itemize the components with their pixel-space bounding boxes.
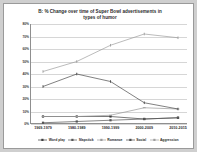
y-axis-tick-label: 0% [24,122,29,126]
legend-marker-icon [38,138,47,142]
data-point-marker [144,101,145,104]
legend-marker-icon [126,138,135,142]
chart-legend: Word playSlapstickRomanceSocialAggressio… [30,138,187,142]
data-point-marker [178,108,179,111]
legend-item[interactable]: Aggression [150,138,179,142]
data-point-marker [42,116,45,117]
legend-item[interactable]: Slapstick [68,138,93,142]
legend-label: Slapstick [79,138,94,142]
y-axis-tick-label: 30% [22,85,29,89]
chart-frame: B: % Change over time of Super Bowl adve… [3,3,194,149]
data-point-marker [143,107,146,108]
data-point-marker [76,73,77,76]
legend-marker-icon [68,138,77,142]
x-axis-tick-label: 1969-1979 [34,126,52,130]
data-point-marker [43,85,44,88]
gridline [31,124,187,125]
legend-marker-icon [150,138,159,142]
x-axis-tick-label: 2010-2015 [169,126,187,130]
y-axis-tick-label: 40% [22,72,29,76]
legend-label: Word play [49,138,65,142]
y-axis-tick-label: 10% [22,110,29,114]
legend-label: Social [136,138,146,142]
data-point-marker [144,33,145,36]
legend-item[interactable]: Social [126,138,146,142]
x-axis-tick-label: 1980-1989 [68,126,86,130]
legend-label: Aggression [160,138,179,142]
data-point-marker [109,115,112,116]
plot-area: 0%10%20%30%40%50%60%70%80% 1969-19791980… [30,24,187,124]
y-axis-tick-label: 60% [22,47,29,51]
y-axis-tick-label: 50% [22,60,29,64]
data-point-marker [177,117,179,119]
legend-item[interactable]: Romance [97,138,122,142]
series-line [43,34,178,72]
y-axis-tick-label: 20% [22,97,29,101]
x-axis-tick-label: 1990-1999 [102,126,120,130]
x-axis-tick-label: 2000-2009 [135,126,153,130]
y-axis-tick-label: 70% [22,35,29,39]
chart-title-line-2: types of humor [18,15,182,21]
data-point-marker [42,122,44,124]
data-point-marker [43,70,44,73]
data-point-marker [110,80,111,83]
data-point-marker [110,44,111,47]
series-line [43,74,178,109]
y-axis-tick-label: 80% [22,22,29,26]
legend-label: Romance [107,138,122,142]
data-point-marker [178,36,179,39]
legend-marker-icon [97,138,106,142]
legend-item[interactable]: Word play [38,138,65,142]
data-point-marker [76,60,77,63]
data-point-marker [76,120,78,122]
data-point-marker [75,116,78,117]
data-point-marker [109,115,111,117]
chart-title: B: % Change over time of Super Bowl adve… [18,9,182,21]
series-lines [31,24,188,124]
data-point-marker [109,119,111,121]
data-point-marker [143,118,145,120]
